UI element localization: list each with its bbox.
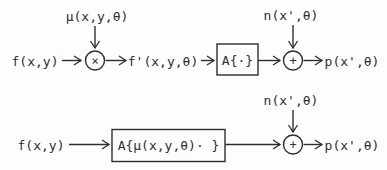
top-noise-label: n(x',θ) — [264, 8, 319, 23]
bottom-row: f(x,y) A{μ(x,y,θ)· } n(x',θ) + p(x',θ) — [18, 93, 380, 162]
bottom-adder-symbol: + — [289, 138, 296, 152]
top-output-label: p(x',θ) — [325, 54, 380, 69]
top-multiplier-symbol: × — [91, 54, 98, 68]
top-input-label: f(x,y) — [12, 54, 59, 69]
bottom-noise-label: n(x',θ) — [264, 93, 319, 108]
top-adder-symbol: + — [289, 54, 296, 68]
bottom-output-label: p(x',θ) — [325, 138, 380, 153]
bottom-input-label: f(x,y) — [18, 138, 65, 153]
top-operator-box-label: A{·} — [222, 53, 253, 68]
block-diagram-svg: f(x,y) μ(x,y,θ) × f'(x,y,θ) A{·} n(x',θ)… — [0, 0, 387, 170]
top-intermediate-label: f'(x,y,θ) — [128, 54, 198, 69]
diagram-canvas: f(x,y) μ(x,y,θ) × f'(x,y,θ) A{·} n(x',θ)… — [0, 0, 387, 170]
top-multiplier-top-label: μ(x,y,θ) — [66, 9, 129, 24]
bottom-operator-box-label: A{μ(x,y,θ)· } — [118, 138, 220, 153]
top-row: f(x,y) μ(x,y,θ) × f'(x,y,θ) A{·} n(x',θ)… — [12, 8, 380, 76]
